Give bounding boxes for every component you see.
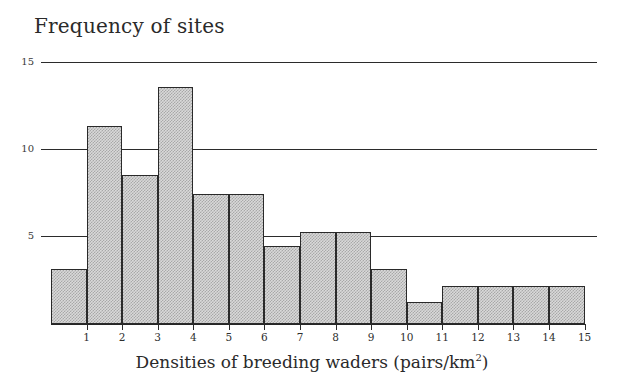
histogram-bar <box>87 126 123 324</box>
gridline-10 <box>41 149 597 150</box>
histogram-bar <box>478 286 514 324</box>
xtick-9 <box>371 324 372 330</box>
xtick-14 <box>549 324 550 330</box>
xtick-7 <box>300 324 301 330</box>
histogram-bar <box>549 286 585 324</box>
ytick-label-5: 5 <box>8 230 34 241</box>
xtick-label-14: 14 <box>538 331 560 343</box>
histogram-bar <box>371 269 407 325</box>
xtick-label-1: 1 <box>76 331 98 343</box>
xtick-label-12: 12 <box>467 331 489 343</box>
histogram-bar <box>229 194 265 324</box>
xtick-label-4: 4 <box>182 331 204 343</box>
histogram-bar <box>442 286 478 324</box>
histogram-bar <box>300 232 336 324</box>
gridline-15 <box>41 62 597 63</box>
x-axis-label: Densities of breeding waders (pairs/km2) <box>0 352 624 372</box>
ytick-label-15: 15 <box>8 56 34 67</box>
histogram-bar <box>407 302 443 325</box>
xtick-1 <box>87 324 88 330</box>
histogram-bar <box>193 194 229 324</box>
histogram-bar <box>122 175 158 324</box>
x-axis-label-text: Densities of breeding waders (pairs/km <box>136 352 476 372</box>
x-axis-label-closeparen: ) <box>482 352 489 372</box>
ytick-label-10: 10 <box>8 143 34 154</box>
xtick-2 <box>122 324 123 330</box>
xtick-label-2: 2 <box>111 331 133 343</box>
xtick-8 <box>336 324 337 330</box>
xtick-label-15: 15 <box>574 331 596 343</box>
x-axis-origin-tick <box>51 318 52 325</box>
x-axis-line <box>51 324 585 325</box>
xtick-15 <box>585 324 586 330</box>
xtick-label-3: 3 <box>147 331 169 343</box>
xtick-label-8: 8 <box>325 331 347 343</box>
xtick-label-5: 5 <box>218 331 240 343</box>
histogram-bar <box>264 246 300 324</box>
xtick-6 <box>264 324 265 330</box>
xtick-4 <box>193 324 194 330</box>
histogram-bar <box>513 286 549 324</box>
histogram-bar <box>51 269 87 325</box>
xtick-12 <box>478 324 479 330</box>
xtick-label-7: 7 <box>289 331 311 343</box>
histogram-figure: Frequency of sites 15 10 5 <box>0 0 624 391</box>
histogram-bar <box>336 232 372 324</box>
plot-area: 15 10 5 <box>0 0 624 391</box>
xtick-label-13: 13 <box>502 331 524 343</box>
xtick-11 <box>442 324 443 330</box>
histogram-bar <box>158 87 194 324</box>
xtick-13 <box>513 324 514 330</box>
xtick-label-10: 10 <box>396 331 418 343</box>
xtick-3 <box>158 324 159 330</box>
xtick-5 <box>229 324 230 330</box>
xtick-label-6: 6 <box>253 331 275 343</box>
xtick-label-9: 9 <box>360 331 382 343</box>
xtick-10 <box>407 324 408 330</box>
xtick-label-11: 11 <box>431 331 453 343</box>
